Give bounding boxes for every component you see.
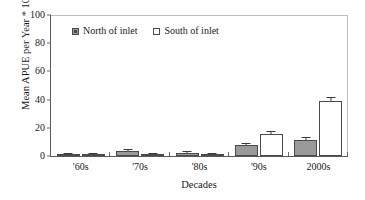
bar-wrapper bbox=[141, 154, 164, 156]
bar-north bbox=[294, 140, 317, 156]
bar-group: '70s bbox=[110, 15, 169, 156]
legend-item-south: South of inlet bbox=[153, 26, 218, 36]
bar-north bbox=[116, 151, 139, 156]
bar-south bbox=[201, 154, 224, 156]
bar-south bbox=[82, 154, 105, 156]
bar-wrapper bbox=[294, 140, 317, 156]
bar-wrapper bbox=[82, 154, 105, 156]
legend-label-south: South of inlet bbox=[164, 26, 218, 36]
bar-groups: '60s'70s'80s'90s2000s bbox=[51, 15, 348, 156]
bar-group: '90s bbox=[229, 15, 288, 156]
bar-wrapper bbox=[201, 154, 224, 156]
bar-group: '60s bbox=[51, 15, 110, 156]
bar-north bbox=[176, 153, 199, 156]
bar-group-bars bbox=[110, 15, 169, 156]
y-tick-label: 100 bbox=[30, 10, 45, 20]
y-tick-label: 20 bbox=[35, 123, 45, 133]
y-tick-label: 0 bbox=[40, 151, 45, 161]
bar-wrapper bbox=[116, 151, 139, 156]
error-bar-cap-top bbox=[301, 137, 310, 138]
x-tick-mark bbox=[347, 152, 348, 156]
bar-group-bars bbox=[51, 15, 110, 156]
bar-south bbox=[141, 154, 164, 156]
x-axis-title: Decades bbox=[50, 180, 348, 191]
bar-group-bars bbox=[229, 15, 288, 156]
bar-group: '80s bbox=[170, 15, 229, 156]
legend-label-north: North of inlet bbox=[83, 26, 137, 36]
chart-figure: Mean APUE per Year * 100 0 20 40 60 80 1… bbox=[0, 0, 365, 200]
bar-wrapper bbox=[235, 145, 258, 156]
x-tick-label: '70s bbox=[110, 162, 169, 172]
bar-north bbox=[57, 154, 80, 156]
error-bar-cap-top bbox=[183, 151, 192, 152]
bar-south bbox=[260, 134, 283, 156]
x-tick-label: '60s bbox=[51, 162, 110, 172]
y-tick-label: 60 bbox=[35, 66, 45, 76]
bar-wrapper bbox=[176, 153, 199, 156]
error-bar-cap-top bbox=[242, 143, 251, 144]
error-bar-cap-top bbox=[123, 149, 132, 150]
bar-south bbox=[319, 101, 342, 156]
x-tick-label: 2000s bbox=[289, 162, 348, 172]
error-bar-cap-top bbox=[267, 131, 276, 132]
bar-wrapper bbox=[319, 101, 342, 156]
legend-item-north: North of inlet bbox=[72, 26, 137, 36]
bar-north bbox=[235, 145, 258, 156]
bar-group: 2000s bbox=[289, 15, 348, 156]
y-tick-label: 80 bbox=[35, 38, 45, 48]
x-tick-label: '80s bbox=[170, 162, 229, 172]
legend-swatch-open-square-icon bbox=[153, 28, 160, 35]
y-tick-label: 40 bbox=[35, 95, 45, 105]
bar-group-bars bbox=[170, 15, 229, 156]
x-tick-label: '90s bbox=[229, 162, 288, 172]
bar-wrapper bbox=[57, 154, 80, 156]
bar-group-bars bbox=[289, 15, 348, 156]
bar-wrapper bbox=[260, 134, 283, 156]
error-bar-cap-top bbox=[326, 97, 335, 98]
chart-legend: North of inlet South of inlet bbox=[72, 26, 219, 36]
plot-area: 0 20 40 60 80 100 '60s'70s'80s'90s2000s bbox=[50, 15, 348, 157]
legend-swatch-filled-square-icon bbox=[72, 28, 79, 35]
